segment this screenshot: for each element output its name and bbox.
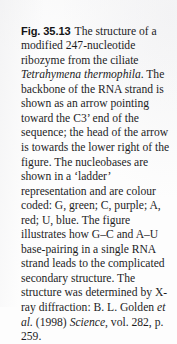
citation-journal-name: Science bbox=[70, 316, 105, 329]
figure-number-label: Fig. 35.13 bbox=[21, 25, 71, 37]
organism-scientific-name: Tetrahymena thermophila bbox=[21, 68, 141, 81]
citation-year: (1998) bbox=[33, 316, 70, 329]
figure-caption-text: Fig. 35.13The structure of a modified 24… bbox=[21, 24, 173, 344]
caption-sentence-main: . The backbone of the RNA strand is show… bbox=[21, 68, 169, 314]
